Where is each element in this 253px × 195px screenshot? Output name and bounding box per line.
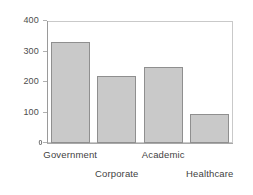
x-axis-label: Government — [20, 149, 120, 161]
y-axis-tick: 200 — [0, 76, 47, 87]
y-axis-tick-label: 400 — [23, 15, 39, 26]
bar-academic[interactable] — [144, 67, 183, 143]
x-axis-label: Academic — [113, 149, 213, 161]
x-axis-label: Corporate — [67, 168, 167, 180]
y-axis-tick: 0 — [0, 137, 47, 148]
y-axis-tick: 300 — [0, 46, 47, 57]
bar-chart: 4003002001000 GovernmentCorporateAcademi… — [0, 0, 253, 195]
x-axis-line — [47, 143, 233, 144]
y-axis-tick: 100 — [0, 107, 47, 118]
x-axis-label: Healthcare — [160, 168, 253, 180]
y-axis-tick-label: 200 — [23, 76, 39, 87]
bar-healthcare[interactable] — [190, 114, 229, 143]
bar-corporate[interactable] — [97, 76, 136, 143]
bar-series — [47, 21, 233, 143]
bar-government[interactable] — [51, 42, 90, 143]
y-axis-tick-label: 300 — [23, 46, 39, 57]
y-axis-tick: 400 — [0, 15, 47, 26]
y-axis-tick-label: 100 — [23, 107, 39, 118]
